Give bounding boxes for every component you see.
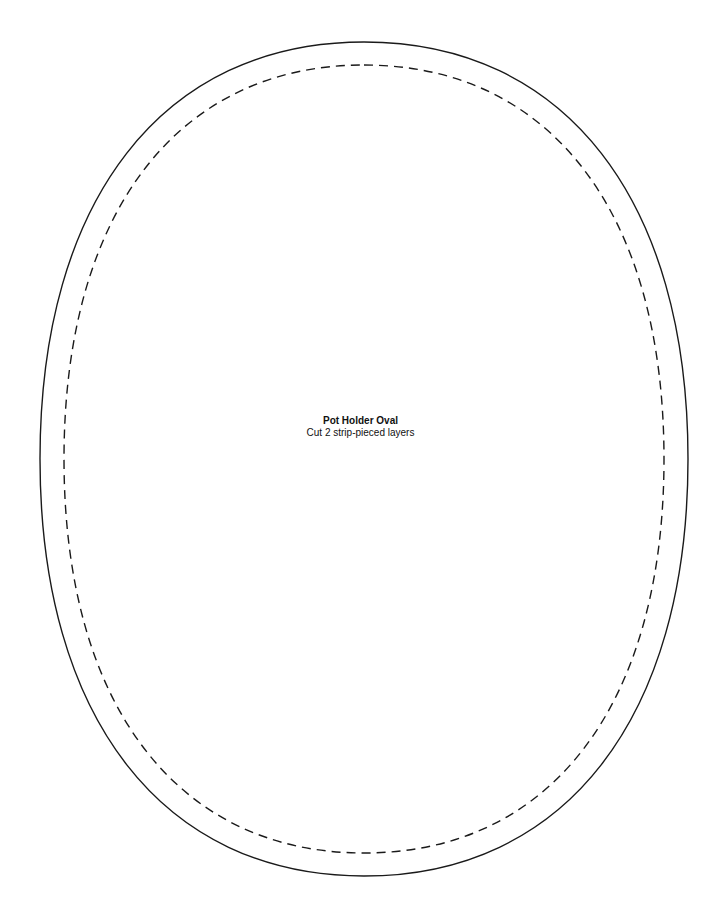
pattern-instruction: Cut 2 strip-pieced layers (0, 427, 721, 439)
oval-template-drawing (0, 0, 721, 921)
seam-line-dashed (64, 65, 664, 853)
pattern-title: Pot Holder Oval (0, 415, 721, 427)
pattern-label: Pot Holder Oval Cut 2 strip-pieced layer… (0, 415, 721, 439)
cut-line-outline (40, 42, 688, 876)
pattern-page: Pot Holder Oval Cut 2 strip-pieced layer… (0, 0, 721, 921)
